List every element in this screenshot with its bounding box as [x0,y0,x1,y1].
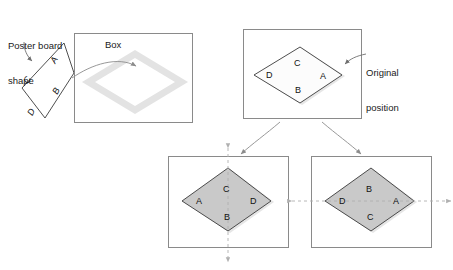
vertical-flip-label-B: B [224,212,230,222]
original-position-label-line2: position [366,102,399,114]
original-diamond-label-D: D [266,70,273,80]
arrow-to-horizontal-flip [322,122,361,154]
original-diamond-label-C: C [294,58,301,68]
box-label: Box [105,39,121,51]
horizontal-flip-label-A: A [393,196,399,206]
figure-root: Poster board shape Box Original position… [0,0,453,270]
vertical-flip-label-C: C [223,184,230,194]
box-panel [72,34,193,123]
original-diamond-label-B: B [295,85,301,95]
vertical-flip-label-A: A [196,196,202,206]
horizontal-flip-label-B: B [366,184,372,194]
horizontal-flip-panel [292,157,451,248]
poster-board-shape-label-line1: Poster board [8,40,62,52]
horizontal-flip-label-D: D [339,196,346,206]
poster-board-shape-label-line2: shape [8,75,62,87]
arrow-to-vertical-flip [241,122,280,154]
original-diamond-label-A: A [320,71,326,81]
horizontal-flip-label-C: C [367,212,374,222]
original-panel [244,30,367,119]
vertical-flip-label-D: D [250,196,257,206]
original-position-label: Original position [366,44,399,136]
transformation-arrows [241,122,361,154]
vertical-flip-panel [169,148,289,262]
original-position-label-line1: Original [366,67,399,79]
